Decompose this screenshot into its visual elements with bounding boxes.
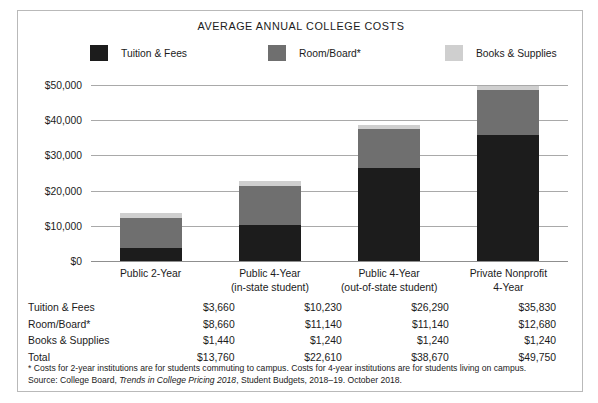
figure-panel: AVERAGE ANNUAL COLLEGE COSTS Tuition & F… — [17, 10, 583, 392]
x-axis-category-label: Private Nonprofit4-Year — [433, 267, 583, 294]
bar-segment — [477, 86, 539, 90]
bar-segment — [120, 213, 182, 218]
gridline — [91, 261, 568, 262]
y-axis-tick-label: $30,000 — [18, 150, 82, 161]
table-cell-value: $8,660 — [146, 317, 253, 334]
table-cell-value: $1,440 — [146, 333, 253, 350]
bar-segment — [358, 125, 420, 129]
table-row-label: Books & Supplies — [28, 333, 146, 350]
y-axis-tick-label: $50,000 — [18, 80, 82, 91]
bar-column — [239, 85, 301, 261]
table-cell-value: $35,830 — [467, 300, 574, 317]
bar-segment — [239, 186, 301, 225]
source-suffix: , Student Budgets, 2018–19. October 2018… — [236, 375, 402, 385]
bar-segment — [477, 135, 539, 261]
bar-segment — [120, 218, 182, 248]
table-row: Tuition & Fees$3,660$10,230$26,290$35,83… — [28, 300, 574, 317]
table-row: Books & Supplies$1,440$1,240$1,240$1,240 — [28, 333, 574, 350]
bar-column — [358, 85, 420, 261]
footnote-costs: * Costs for 2-year institutions are for … — [28, 362, 576, 374]
bar-column — [477, 85, 539, 261]
table-cell-value: $11,140 — [360, 317, 467, 334]
table-row: Room/Board*$8,660$11,140$11,140$12,680 — [28, 317, 574, 334]
bar-segment — [477, 90, 539, 135]
footnote-source: Source: College Board, Trends in College… — [28, 374, 576, 386]
table-cell-value: $1,240 — [360, 333, 467, 350]
table-cell-value: $1,240 — [253, 333, 360, 350]
source-title: Trends in College Pricing 2018 — [119, 375, 236, 385]
bar-segment — [239, 225, 301, 261]
y-axis-tick-label: $0 — [18, 256, 82, 267]
source-prefix: Source: College Board, — [28, 375, 119, 385]
table-row-label: Tuition & Fees — [28, 300, 146, 317]
footnotes: * Costs for 2-year institutions are for … — [28, 362, 576, 387]
table-cell-value: $3,660 — [146, 300, 253, 317]
table-body: Tuition & Fees$3,660$10,230$26,290$35,83… — [28, 300, 574, 366]
y-axis-tick-label: $40,000 — [18, 115, 82, 126]
table-cell-value: $12,680 — [467, 317, 574, 334]
table-row-label: Room/Board* — [28, 317, 146, 334]
data-table: Tuition & Fees$3,660$10,230$26,290$35,83… — [28, 300, 574, 366]
y-axis-tick-label: $10,000 — [18, 220, 82, 231]
bar-segment — [239, 181, 301, 185]
table-cell-value: $11,140 — [253, 317, 360, 334]
bar-segment — [358, 129, 420, 168]
y-axis-tick-label: $20,000 — [18, 185, 82, 196]
bar-segment — [358, 168, 420, 261]
bar-segment — [120, 248, 182, 261]
table-cell-value: $1,240 — [467, 333, 574, 350]
bar-column — [120, 85, 182, 261]
table-cell-value: $26,290 — [360, 300, 467, 317]
table-cell-value: $10,230 — [253, 300, 360, 317]
